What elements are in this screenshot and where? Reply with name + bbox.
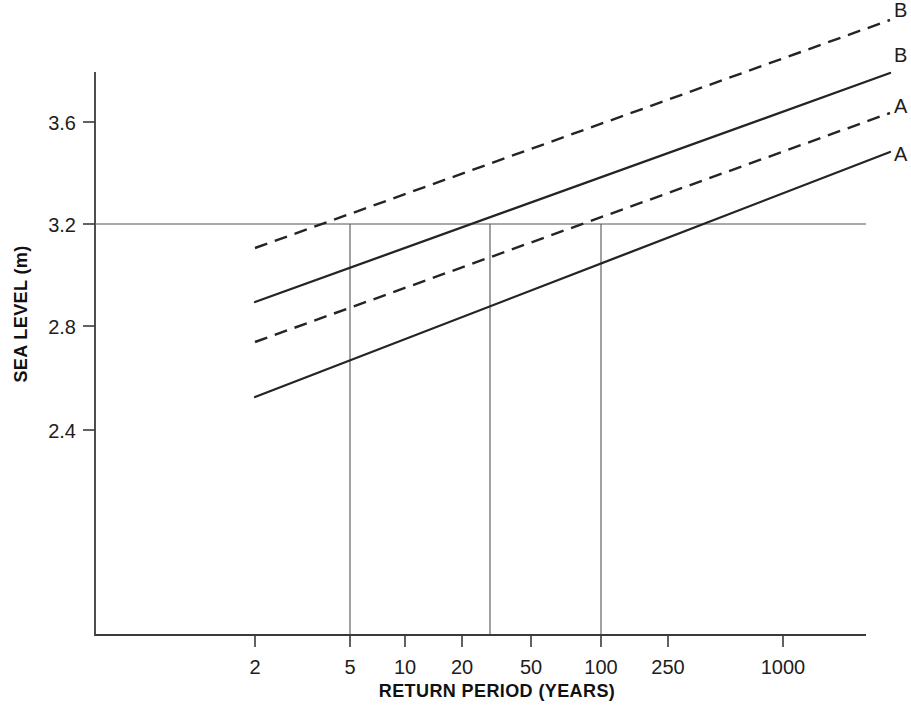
y-axis-title: SEA LEVEL (m): [11, 245, 31, 382]
y-tick-label-2.4: 2.4: [48, 420, 76, 442]
x-tick-label-20: 20: [451, 656, 473, 678]
series-line-B-solid: [255, 73, 890, 302]
x-tick-label-100: 100: [584, 656, 617, 678]
y-tick-label-3.2: 3.2: [48, 214, 76, 236]
series-label-A-solid: A: [894, 143, 908, 165]
series-label-B-dashed: B: [894, 0, 907, 21]
x-tick-label-250: 250: [651, 656, 684, 678]
x-tick-label-10: 10: [394, 656, 416, 678]
y-tick-label-2.8: 2.8: [48, 316, 76, 338]
x-tick-label-50: 50: [520, 656, 542, 678]
x-tick-label-1000: 1000: [761, 656, 806, 678]
x-tick-label-5: 5: [344, 656, 355, 678]
series-line-B-dashed: [255, 20, 890, 248]
y-axis-ticks: [83, 122, 95, 430]
x-tick-label-2: 2: [249, 656, 260, 678]
series-label-A-dashed: A: [894, 95, 908, 117]
chart-plot-area: 3.6 3.2 2.8 2.4 2 5 10 20 50 100 250 100…: [0, 0, 911, 709]
y-tick-label-3.6: 3.6: [48, 112, 76, 134]
x-axis-title: RETURN PERIOD (YEARS): [379, 681, 615, 701]
x-axis-ticks: [255, 635, 783, 647]
sea-level-return-period-chart: 3.6 3.2 2.8 2.4 2 5 10 20 50 100 250 100…: [0, 0, 911, 709]
series-label-B-solid: B: [894, 44, 907, 66]
